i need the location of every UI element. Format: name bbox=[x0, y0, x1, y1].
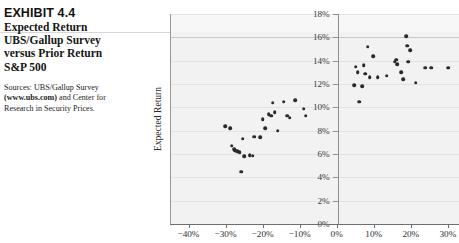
data-point bbox=[396, 62, 400, 66]
y-tick-label-12: 12% bbox=[300, 79, 330, 89]
y-tick-label-2: 2% bbox=[300, 196, 330, 206]
data-point bbox=[400, 71, 404, 75]
data-point bbox=[376, 75, 380, 79]
data-point bbox=[238, 150, 242, 154]
exhibit-title: Expected Return UBS/Gallup Survey versus… bbox=[4, 21, 154, 74]
data-point bbox=[269, 114, 273, 118]
data-point bbox=[414, 81, 418, 85]
x-tick-label-20: 20% bbox=[391, 229, 431, 239]
data-point bbox=[409, 48, 413, 52]
x-axis-line bbox=[170, 224, 459, 225]
y-axis-line bbox=[338, 14, 339, 224]
sources-url: (www.ubs.com) bbox=[4, 93, 57, 102]
y-tick-10 bbox=[333, 107, 338, 108]
x-tick--10 bbox=[300, 224, 301, 228]
x-tick-label--40: −40% bbox=[169, 229, 209, 239]
x-tick-0 bbox=[337, 224, 338, 228]
plot-area: 0%2%4%6%8%10%12%14%16%18% bbox=[171, 14, 459, 224]
x-tick-30 bbox=[448, 224, 449, 228]
data-point bbox=[372, 54, 376, 58]
data-point bbox=[276, 129, 280, 133]
x-tick--40 bbox=[189, 224, 190, 228]
data-point bbox=[404, 34, 408, 38]
y-tick-label-18: 18% bbox=[300, 9, 330, 19]
data-point bbox=[240, 170, 244, 174]
data-point bbox=[302, 107, 306, 111]
exhibit-number: EXHIBIT 4.4 bbox=[4, 6, 154, 20]
data-point bbox=[294, 99, 298, 103]
x-tick-label-30: 30% bbox=[428, 229, 459, 239]
data-point bbox=[385, 74, 389, 78]
x-tick-label-10: 10% bbox=[354, 229, 394, 239]
y-tick-14 bbox=[333, 61, 338, 62]
data-point bbox=[258, 135, 262, 139]
data-point bbox=[228, 127, 232, 131]
x-tick-label--20: −20% bbox=[243, 229, 283, 239]
x-tick-20 bbox=[411, 224, 412, 228]
exhibit-title-line-3: versus Prior Return bbox=[4, 47, 154, 60]
data-point bbox=[356, 71, 360, 75]
data-point bbox=[271, 101, 275, 105]
exhibit-title-line-1: Expected Return bbox=[4, 21, 154, 34]
x-tick-label--10: −10% bbox=[280, 229, 320, 239]
exhibit-title-line-2: UBS/Gallup Survey bbox=[4, 34, 154, 47]
data-point bbox=[242, 155, 246, 159]
data-point bbox=[352, 83, 356, 87]
data-point bbox=[273, 110, 277, 114]
sources-mid: and Center for bbox=[57, 93, 106, 102]
data-point bbox=[429, 66, 433, 70]
data-point bbox=[263, 127, 267, 131]
x-tick--20 bbox=[263, 224, 264, 228]
data-point bbox=[282, 100, 286, 104]
data-point bbox=[288, 116, 292, 120]
y-tick-8 bbox=[333, 131, 338, 132]
data-point bbox=[304, 114, 308, 118]
y-tick-16 bbox=[333, 37, 338, 38]
y-tick-2 bbox=[333, 201, 338, 202]
data-point bbox=[354, 65, 358, 69]
y-axis-title: Expected Return bbox=[152, 87, 163, 151]
data-point bbox=[401, 78, 405, 82]
y-tick-label-6: 6% bbox=[300, 149, 330, 159]
x-tick-label--30: −30% bbox=[206, 229, 246, 239]
data-point bbox=[406, 60, 410, 64]
data-point bbox=[394, 58, 398, 62]
sources-suffix: Research in Security Prices. bbox=[4, 104, 95, 113]
sources-note: Sources: UBS/Gallup Survey (www.ubs.com)… bbox=[4, 83, 154, 115]
x-tick--30 bbox=[226, 224, 227, 228]
data-point bbox=[406, 44, 410, 48]
y-tick-label-8: 8% bbox=[300, 126, 330, 136]
caption-block: EXHIBIT 4.4 Expected Return UBS/Gallup S… bbox=[4, 6, 154, 115]
x-tick-10 bbox=[374, 224, 375, 228]
scatter-chart: 0%2%4%6%8%10%12%14%16%18% Expected Retur… bbox=[170, 14, 459, 224]
x-tick-label-0: 0% bbox=[317, 229, 357, 239]
y-tick-label-16: 16% bbox=[300, 32, 330, 42]
data-point bbox=[357, 100, 361, 104]
y-tick-12 bbox=[333, 84, 338, 85]
exhibit-title-line-4: S&P 500 bbox=[4, 61, 154, 74]
data-point bbox=[362, 64, 366, 68]
data-point bbox=[261, 117, 265, 121]
y-tick-label-14: 14% bbox=[300, 56, 330, 66]
y-tick-18 bbox=[333, 14, 338, 15]
data-point bbox=[251, 154, 255, 158]
exhibit-figure: EXHIBIT 4.4 Expected Return UBS/Gallup S… bbox=[0, 0, 459, 243]
y-tick-6 bbox=[333, 154, 338, 155]
data-point bbox=[446, 66, 450, 70]
y-tick-4 bbox=[333, 177, 338, 178]
data-point bbox=[252, 135, 256, 139]
data-point bbox=[241, 137, 245, 141]
sources-prefix: Sources: UBS/Gallup Survey bbox=[4, 83, 99, 92]
data-point bbox=[363, 72, 367, 76]
data-point bbox=[366, 45, 370, 49]
data-point bbox=[223, 124, 227, 128]
data-point bbox=[360, 85, 364, 89]
y-tick-label-4: 4% bbox=[300, 172, 330, 182]
data-point bbox=[423, 66, 427, 70]
data-point bbox=[368, 75, 372, 79]
